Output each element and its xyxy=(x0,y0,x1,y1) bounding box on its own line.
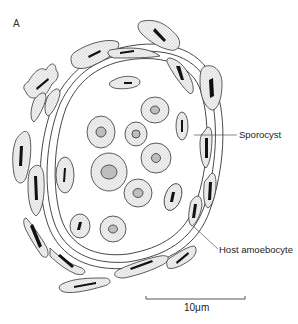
host-amoebocyte-label: Host amoebocyte xyxy=(219,244,293,255)
sporocyst-diagram xyxy=(0,0,298,324)
scale-bar-label: 10μm xyxy=(184,302,209,313)
scale-bar xyxy=(146,296,245,299)
host-amoebocyte-leader-line xyxy=(193,226,218,249)
sporocyst-label: Sporocyst xyxy=(239,129,281,140)
germinal-cells xyxy=(56,76,188,242)
